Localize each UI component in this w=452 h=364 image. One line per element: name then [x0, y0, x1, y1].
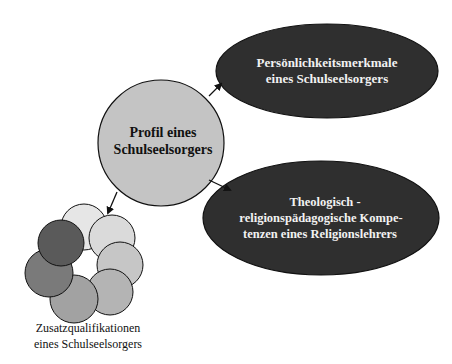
- cluster-label-line1: Zusatzqualifikationen: [36, 321, 141, 335]
- top-node-label-line2: eines Schulseelsorgers: [266, 71, 388, 86]
- central-node-label-line2: Schulseelsorgers: [114, 142, 213, 157]
- cluster-node-additional-qualifications: Zusatzqualifikationen eines Schulseelsor…: [25, 204, 143, 351]
- diagram-canvas: Persönlichkeitsmerkmale eines Schulseels…: [0, 0, 452, 364]
- central-node-profile: Profil eines Schulseelsorgers: [98, 80, 224, 206]
- cluster-circle: [38, 220, 84, 266]
- arrow-to-cluster-node: [108, 192, 117, 213]
- arrow-to-top-node: [209, 84, 221, 96]
- bottom-node-label-line1: Theologisch -: [289, 195, 360, 209]
- bottom-node-label-line3: tenzen eines Religionslehrers: [243, 227, 397, 241]
- top-node-label-line1: Persönlichkeitsmerkmale: [257, 55, 398, 70]
- cluster-label-line2: eines Schulseelsorgers: [34, 337, 142, 351]
- bottom-node-label-line2: religionspädagogische Kompe-: [239, 211, 402, 225]
- bottom-node-theological-competences: Theologisch - religionspädagogische Komp…: [203, 161, 439, 275]
- central-node-label-line1: Profil eines: [129, 125, 197, 140]
- top-node-personality-traits: Persönlichkeitsmerkmale eines Schulseels…: [216, 24, 438, 118]
